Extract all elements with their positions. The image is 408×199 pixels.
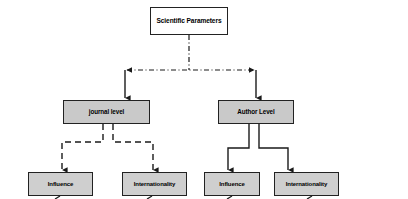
node-label: Author Level [237,109,274,116]
node-scientific-parameters[interactable]: Scientific Parameters [150,7,228,35]
node-author-level[interactable]: Author Level [218,100,294,124]
edge-journal-to-internationality [113,124,153,170]
node-label: Influence [48,181,73,187]
node-label: Internationality [286,181,327,187]
edge-author-to-influence [228,124,249,170]
node-journal-influence[interactable]: Influence [28,172,93,196]
node-author-influence[interactable]: Influence [204,172,260,196]
node-journal-internationality[interactable]: Internationality [122,172,187,196]
edge-journal-internationality-stub [147,196,152,199]
node-label: journal level [89,109,124,116]
node-label: Internationality [134,181,175,187]
node-label: Influence [219,181,244,187]
node-journal-level[interactable]: journal level [63,100,150,124]
diagram-canvas: Scientific Parameters journal level Auth… [0,0,408,199]
edge-author-to-internationality [259,124,288,170]
node-label: Scientific Parameters [157,18,222,25]
edge-author-internationality-stub [307,196,312,199]
edge-author-influence-stub [227,196,232,199]
edge-journal-to-influence [62,124,103,170]
node-author-internationality[interactable]: Internationality [274,172,339,196]
edge-journal-influence-stub [55,196,60,199]
